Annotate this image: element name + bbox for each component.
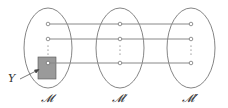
node-points [46, 22, 193, 65]
ellipse-m-prime [96, 8, 144, 88]
label-m: 𝓜 [41, 92, 53, 105]
arrow-to-y [20, 70, 39, 80]
label-y: Y [8, 72, 15, 85]
vertical-dots [47, 45, 191, 54]
ellipse-m-double-prime [167, 8, 215, 88]
label-m-double-prime: 𝓜″ [182, 92, 198, 105]
subset-y-box [38, 57, 56, 79]
label-m-prime: 𝓜′ [112, 92, 127, 105]
